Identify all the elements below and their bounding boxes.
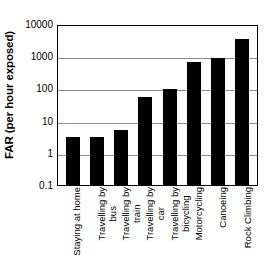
x-tick-slot: Travelling bycar xyxy=(133,186,157,265)
y-axis-title: FAR (per hour exposed) xyxy=(0,0,18,190)
x-tick-label-line1: Travelling by xyxy=(121,187,132,241)
x-tick-slot: Canoeing xyxy=(206,186,230,265)
y-tick-100: 100 xyxy=(36,84,53,94)
x-tick-label: Motorcycling xyxy=(194,187,205,240)
x-tick-label-line1: Canoeing xyxy=(218,187,229,228)
x-axis-tick-labels: Staying at homeTravelling bybusTravellin… xyxy=(57,186,258,265)
x-tick-label: Canoeing xyxy=(218,187,229,228)
bar-slot xyxy=(109,26,133,185)
bar xyxy=(235,39,249,185)
x-tick-label-line1: Travelling by xyxy=(97,187,108,241)
bar-slot xyxy=(133,26,157,185)
x-tick-label-line1: Motorcycling xyxy=(194,187,205,240)
x-tick-slot: Travelling bybicycling xyxy=(158,186,182,265)
far-bar-chart: FAR (per hour exposed) 1000010001001010.… xyxy=(0,0,268,265)
x-tick-slot: Rock Climbing xyxy=(231,186,255,265)
x-tick-label-line1: Travelling by xyxy=(170,187,181,241)
bar xyxy=(138,97,152,185)
x-tick-slot: Motorcycling xyxy=(182,186,206,265)
bar xyxy=(211,58,225,185)
bar xyxy=(66,137,80,185)
y-tick-10000: 10000 xyxy=(25,20,53,30)
bar-slot xyxy=(85,26,109,185)
bar-slot xyxy=(61,26,85,185)
bar xyxy=(187,62,201,185)
x-tick-label-line1: Staying at home xyxy=(72,187,83,256)
bar xyxy=(163,89,177,185)
bar-slot xyxy=(182,26,206,185)
x-tick-label-line1: Rock Climbing xyxy=(243,187,254,248)
x-tick-slot: Travelling bytrain xyxy=(109,186,133,265)
bar xyxy=(90,137,104,185)
y-tick-0.1: 0.1 xyxy=(39,181,53,191)
bar-slot xyxy=(206,26,230,185)
bar xyxy=(114,130,128,185)
x-tick-label: Staying at home xyxy=(72,187,83,256)
bar-series xyxy=(58,26,257,185)
plot-area xyxy=(57,25,258,186)
bar-slot xyxy=(158,26,182,185)
y-axis-title-text: FAR (per hour exposed) xyxy=(3,31,15,159)
y-axis-tick-labels: 1000010001001010.1 xyxy=(18,0,56,200)
x-tick-slot: Staying at home xyxy=(60,186,84,265)
x-tick-slot: Travelling bybus xyxy=(84,186,108,265)
bar-slot xyxy=(230,26,254,185)
y-tick-1000: 1000 xyxy=(31,52,53,62)
y-tick-10: 10 xyxy=(42,117,53,127)
x-tick-label: Rock Climbing xyxy=(243,187,254,248)
y-tick-1: 1 xyxy=(47,149,53,159)
